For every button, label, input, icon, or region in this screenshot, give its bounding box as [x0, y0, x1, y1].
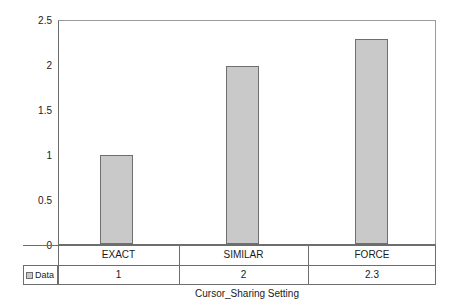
table-vline-left	[58, 245, 59, 285]
y-tick-label: 2.5	[6, 16, 52, 26]
y-tick-label: 0.5	[6, 196, 52, 206]
table-vline-right	[435, 245, 436, 285]
table-cell-value: 2.3	[308, 265, 436, 285]
legend-swatch-icon	[26, 272, 33, 279]
table-row-values: 1 2 2.3	[23, 265, 436, 285]
table-hline-top	[23, 245, 436, 246]
y-tick-label: 2	[6, 61, 52, 71]
y-tick-label: 1.5	[6, 106, 52, 116]
bar-chart-figure: Normalized Throughput 2.5 2 1.5 1 0.5 0 …	[0, 0, 453, 305]
table-cell-category: EXACT	[58, 245, 179, 265]
table-hline-middle	[23, 265, 436, 266]
legend-label: Data	[35, 271, 54, 280]
legend-data: Data	[23, 265, 58, 285]
table-cell-value: 1	[58, 265, 179, 285]
table-row-categories: EXACT SIMILAR FORCE	[23, 245, 436, 265]
table-cell-category: FORCE	[308, 245, 436, 265]
bar-exact	[100, 155, 133, 244]
table-hline-bottom	[23, 284, 436, 285]
bar-similar	[226, 66, 259, 244]
y-tick-label: 1	[6, 151, 52, 161]
x-axis-title: Cursor_Sharing Setting	[58, 288, 436, 300]
table-vline-col2	[308, 245, 309, 285]
bar-force	[355, 39, 388, 244]
table-vline-col1	[179, 245, 180, 285]
plot-area	[58, 20, 436, 245]
data-table: EXACT SIMILAR FORCE 1 2 2.3 Data	[23, 245, 436, 285]
table-cell-category: SIMILAR	[179, 245, 308, 265]
table-cell-value: 2	[179, 265, 308, 285]
